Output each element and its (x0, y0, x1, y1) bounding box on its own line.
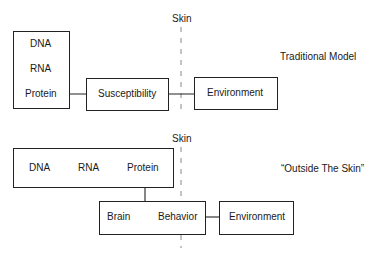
skin-label-bottom: Skin (172, 134, 191, 144)
dna-label: DNA (30, 39, 51, 49)
susceptibility-label: Susceptibility (98, 89, 156, 99)
outside-the-skin-title: “Outside The Skin” (281, 164, 364, 174)
traditional-model-title: Traditional Model (280, 52, 356, 62)
dna-label-outside: DNA (29, 163, 50, 173)
behavior-label: Behavior (158, 212, 197, 222)
brain-label: Brain (107, 212, 130, 222)
skin-label-top: Skin (172, 14, 191, 24)
environment-label-outside: Environment (229, 212, 285, 222)
environment-label-traditional: Environment (207, 88, 263, 98)
rna-label-outside: RNA (78, 163, 99, 173)
protein-label-outside: Protein (127, 163, 159, 173)
protein-label: Protein (25, 89, 57, 99)
rna-label: RNA (30, 64, 51, 74)
